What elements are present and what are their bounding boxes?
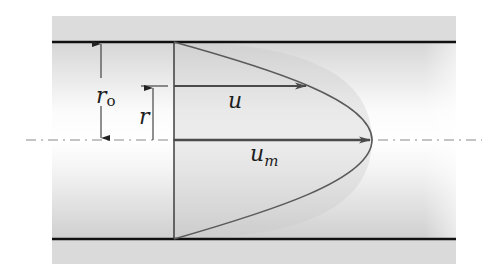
pipe-bottom-band [52,239,456,264]
pipe-flow-diagram: ro r u um [0,0,501,264]
label-velocity-u: u [228,88,242,113]
label-outer-radius-sub: o [107,92,116,110]
pipe-top-band [52,16,456,42]
label-max-velocity-sub: m [264,152,278,170]
label-radius: r [139,104,151,129]
